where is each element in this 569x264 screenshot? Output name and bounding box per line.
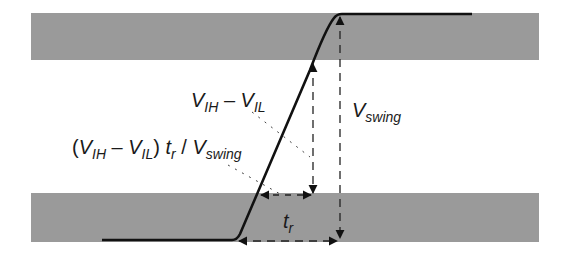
rise-time-label: tr bbox=[283, 211, 293, 235]
vswing-label: Vswing bbox=[352, 100, 401, 124]
high-level-band bbox=[31, 13, 539, 60]
rise-time-diagram: VIH – VIL Vswing (VIH – VIL) tr / Vswing… bbox=[0, 0, 569, 264]
formula-leader bbox=[228, 165, 282, 195]
partial-rise-formula-label: (VIH – VIL) tr / Vswing bbox=[72, 137, 242, 161]
vih-vil-label: VIH – VIL bbox=[191, 90, 266, 114]
vih-vil-leader bbox=[252, 112, 310, 157]
